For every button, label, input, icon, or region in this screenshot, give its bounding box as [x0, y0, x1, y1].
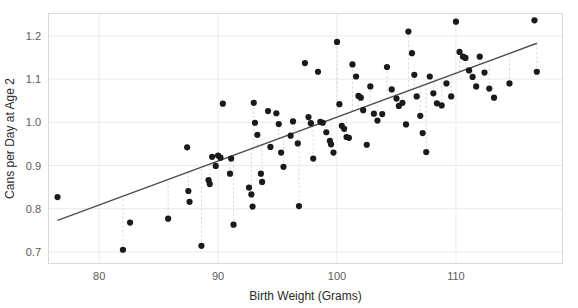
data-point: [466, 67, 472, 73]
data-point: [334, 39, 340, 45]
data-point: [506, 80, 512, 86]
data-point: [278, 149, 284, 155]
data-point: [330, 149, 336, 155]
data-point: [393, 95, 399, 101]
data-point: [371, 111, 377, 117]
data-point: [346, 135, 352, 141]
data-point: [246, 184, 252, 190]
data-point: [477, 54, 483, 60]
data-point: [230, 222, 236, 228]
data-point: [127, 219, 133, 225]
data-point: [534, 69, 540, 75]
y-axis-ticks: 0.70.80.91.01.11.2: [26, 30, 41, 258]
data-point: [336, 101, 342, 107]
data-point: [290, 118, 296, 124]
data-point: [384, 64, 390, 70]
data-point: [364, 142, 370, 148]
data-point: [358, 95, 364, 101]
data-point: [227, 171, 233, 177]
x-tick-label: 110: [447, 270, 465, 282]
x-axis-ticks: 8090100110: [93, 270, 465, 282]
data-point: [265, 108, 271, 114]
data-point: [209, 154, 215, 160]
x-tick-label: 100: [328, 270, 346, 282]
data-point: [320, 120, 326, 126]
data-point: [379, 111, 385, 117]
data-point: [486, 86, 492, 92]
data-point: [403, 121, 409, 127]
data-point: [288, 133, 294, 139]
data-point: [462, 55, 468, 61]
data-point: [273, 110, 279, 116]
data-point: [259, 179, 265, 185]
data-point: [267, 144, 273, 150]
data-point: [276, 121, 282, 127]
data-point: [213, 163, 219, 169]
data-point: [439, 102, 445, 108]
data-point: [185, 188, 191, 194]
data-point: [453, 19, 459, 25]
y-tick-label: 1.1: [26, 73, 41, 85]
data-point: [258, 171, 264, 177]
data-point: [349, 61, 355, 67]
data-point: [417, 113, 423, 119]
x-tick-label: 80: [93, 270, 105, 282]
data-point: [420, 130, 426, 136]
data-point: [427, 73, 433, 79]
data-point: [405, 28, 411, 34]
data-point: [207, 181, 213, 187]
data-point: [184, 144, 190, 150]
scatter-plot-figure: 80901001100.70.80.91.01.11.2Birth Weight…: [0, 0, 578, 308]
data-point: [399, 100, 405, 106]
y-tick-label: 0.7: [26, 246, 41, 258]
data-point: [315, 69, 321, 75]
data-point: [423, 149, 429, 155]
data-point: [249, 203, 255, 209]
data-point: [414, 93, 420, 99]
plot-panel-background: [48, 13, 563, 264]
data-point: [323, 129, 329, 135]
data-point: [186, 199, 192, 205]
data-point: [374, 117, 380, 123]
data-point: [295, 140, 301, 146]
data-point: [217, 155, 223, 161]
panel-bg-rect: [48, 13, 563, 264]
data-point: [252, 120, 258, 126]
x-axis-title: Birth Weight (Grams): [249, 289, 361, 303]
data-point: [491, 95, 497, 101]
data-point: [228, 155, 234, 161]
y-tick-label: 1.0: [26, 116, 41, 128]
y-tick-label: 0.9: [26, 160, 41, 172]
chart-canvas: 80901001100.70.80.91.01.11.2Birth Weight…: [0, 0, 578, 308]
data-point: [165, 216, 171, 222]
data-point: [248, 191, 254, 197]
data-point: [302, 60, 308, 66]
data-point: [360, 107, 366, 113]
y-tick-label: 1.2: [26, 30, 41, 42]
y-tick-label: 0.8: [26, 203, 41, 215]
x-tick-label: 90: [212, 270, 224, 282]
data-point: [280, 164, 286, 170]
data-point: [120, 247, 126, 253]
data-point: [220, 101, 226, 107]
data-point: [409, 50, 415, 56]
data-point: [254, 132, 260, 138]
data-point: [367, 83, 373, 89]
data-point: [430, 90, 436, 96]
data-point: [353, 73, 359, 79]
data-point: [473, 83, 479, 89]
data-point: [198, 243, 204, 249]
data-point: [251, 100, 257, 106]
data-point: [411, 72, 417, 78]
data-point: [328, 141, 334, 147]
data-point: [531, 17, 537, 23]
y-axis-title: Cans per Day at Age 2: [3, 78, 17, 199]
data-point: [443, 80, 449, 86]
data-point: [296, 203, 302, 209]
data-point: [481, 70, 487, 76]
data-point: [54, 194, 60, 200]
data-point: [310, 155, 316, 161]
data-point: [308, 120, 314, 126]
data-point: [470, 74, 476, 80]
data-point: [389, 86, 395, 92]
